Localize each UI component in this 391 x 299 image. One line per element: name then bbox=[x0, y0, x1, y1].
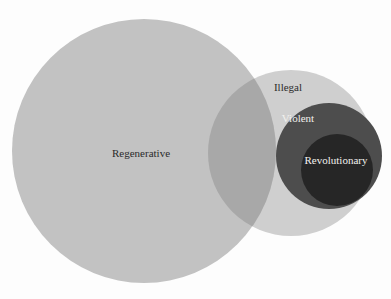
set-label-regenerative: Regenerative bbox=[112, 147, 170, 159]
venn-diagram: Regenerative Illegal Violent Revolutiona… bbox=[0, 0, 391, 299]
set-circle-revolutionary[interactable] bbox=[301, 134, 373, 206]
set-label-violent: Violent bbox=[282, 112, 314, 124]
set-label-illegal: Illegal bbox=[274, 81, 302, 93]
venn-diagram-canvas: Regenerative Illegal Violent Revolutiona… bbox=[0, 0, 391, 299]
set-label-revolutionary: Revolutionary bbox=[305, 154, 368, 166]
